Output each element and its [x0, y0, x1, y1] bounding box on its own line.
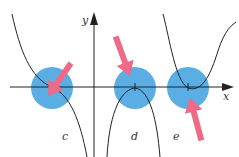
- diagram-canvas: y x c d e: [0, 0, 239, 157]
- y-axis-label: y: [81, 14, 89, 27]
- panel-label-e: e: [173, 130, 180, 143]
- x-axis-label: x: [223, 90, 230, 103]
- panel-label-c: c: [62, 130, 68, 143]
- y-axis-arrow-icon: [90, 12, 98, 25]
- stationary-points-diagram: y x c d e: [0, 0, 239, 157]
- panel-label-d: d: [131, 130, 138, 143]
